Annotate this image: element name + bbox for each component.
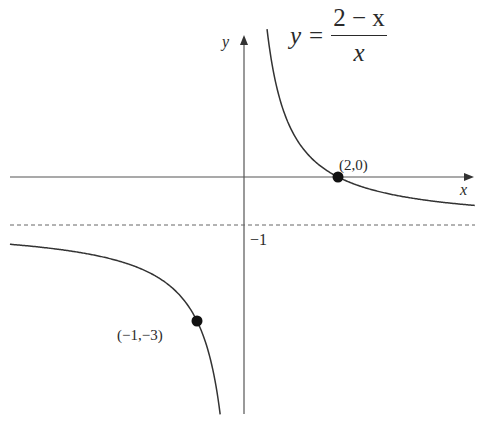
equation-lhs: y <box>290 22 301 50</box>
x-axis-label: x <box>460 182 467 198</box>
asymptote-label: −1 <box>250 232 267 248</box>
equation-fraction: 2 − x x <box>331 4 387 67</box>
equation-numerator: 2 − x <box>331 4 387 36</box>
x-axis-arrow-icon <box>464 173 474 181</box>
point-label-2-0: (2,0) <box>339 158 368 173</box>
point-neg1-neg3 <box>192 316 203 327</box>
graph-canvas <box>0 0 477 431</box>
graph-figure: y = 2 − x x y x −1 (2,0) (−1,−3) <box>0 0 477 431</box>
point-2-0 <box>333 172 344 183</box>
equation: y = 2 − x x <box>290 4 387 67</box>
y-axis-arrow-icon <box>240 35 248 45</box>
y-axis-label: y <box>222 34 229 50</box>
curve-left-branch <box>10 244 220 414</box>
point-label-neg1-neg3: (−1,−3) <box>117 328 163 343</box>
equation-denominator: x <box>353 36 364 67</box>
equation-equals: = <box>309 22 323 50</box>
